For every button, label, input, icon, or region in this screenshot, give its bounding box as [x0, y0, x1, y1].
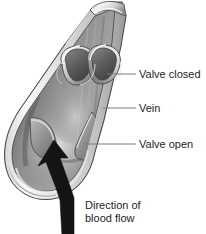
- label-valve-closed: Valve closed: [139, 68, 201, 81]
- label-valve-open: Valve open: [139, 138, 193, 151]
- label-direction-line2: blood flow: [85, 212, 141, 225]
- label-direction-line1: Direction of: [85, 199, 141, 211]
- vein-valve-diagram: Valve closed Vein Valve open Direction o…: [0, 0, 206, 234]
- label-vein: Vein: [139, 102, 160, 115]
- upper-valve-cusps: [57, 45, 122, 85]
- label-direction-of-blood-flow: Direction of blood flow: [85, 199, 141, 225]
